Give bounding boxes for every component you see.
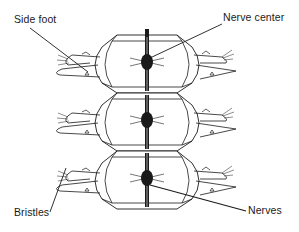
segment-2 xyxy=(56,93,236,151)
bristles-label: Bristles xyxy=(14,207,49,218)
bristles-leader-line xyxy=(50,168,66,212)
side-foot-label: Side foot xyxy=(14,14,56,25)
segment-1 xyxy=(56,35,236,93)
side-foot-leader-line xyxy=(30,28,88,72)
earthworm-segments-drawing xyxy=(0,0,299,232)
diagram-canvas: Side foot Nerve center Bristles Nerves xyxy=(0,0,299,232)
segment-3 xyxy=(56,151,236,209)
nerves-label: Nerves xyxy=(248,205,282,216)
nerve-center-label: Nerve center xyxy=(223,12,284,23)
